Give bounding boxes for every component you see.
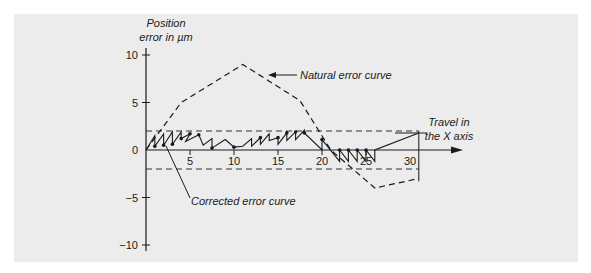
correction-point xyxy=(232,145,236,149)
correction-point xyxy=(162,143,166,147)
x-tick-label: 20 xyxy=(316,155,328,167)
correction-point xyxy=(347,148,351,152)
x-tick-label: 5 xyxy=(187,155,193,167)
correction-point xyxy=(188,132,192,136)
error-chart: 1050−5−1051015202530 Position error in µ… xyxy=(0,0,591,273)
y-tick-label: 10 xyxy=(126,49,138,61)
correction-point xyxy=(364,148,368,152)
y-tick-label: 0 xyxy=(132,144,138,156)
y-tick-label: 5 xyxy=(132,97,138,109)
x-axis-arrowhead xyxy=(451,147,463,154)
correction-point xyxy=(259,136,263,140)
x-tick-label: 10 xyxy=(228,155,240,167)
correction-point xyxy=(303,131,307,135)
natural-annotation-arrowhead xyxy=(268,72,276,78)
x-tick-label: 15 xyxy=(272,155,284,167)
correction-point xyxy=(197,133,201,137)
correction-point xyxy=(276,136,280,140)
correction-point xyxy=(320,138,324,142)
x-axis-label-line1: Travel in xyxy=(428,116,469,128)
y-axis-label-line1: Position xyxy=(146,17,185,29)
correction-point xyxy=(210,146,214,150)
correction-point xyxy=(153,144,157,148)
natural-curve-annotation: Natural error curve xyxy=(300,69,392,81)
correction-point xyxy=(294,130,298,134)
y-tick-label: −5 xyxy=(125,192,138,204)
correction-point xyxy=(338,148,342,152)
corrected-curve-annotation: Corrected error curve xyxy=(191,195,296,207)
correction-point xyxy=(171,143,175,147)
y-tick-label: −10 xyxy=(119,239,138,251)
x-tick-label: 30 xyxy=(404,155,416,167)
correction-point xyxy=(285,131,289,135)
x-axis-label-line2: the X axis xyxy=(425,130,474,142)
correction-point xyxy=(355,148,359,152)
correction-point xyxy=(179,137,183,141)
y-axis-label-line2: error in µm xyxy=(139,31,192,43)
corrected-annotation-leader xyxy=(166,146,190,198)
